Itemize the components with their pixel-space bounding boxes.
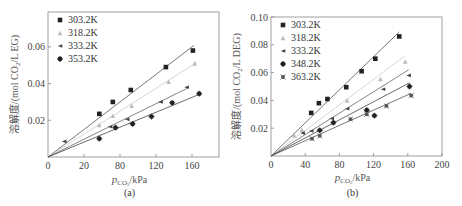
legend-label: 318.2K [291,32,322,43]
marker-left-triangle-icon [62,140,67,144]
x-tick-label: 160 [400,159,415,170]
marker-asterisk-icon [317,133,322,138]
marker-left-triangle-icon [345,107,350,111]
marker-square-icon [397,34,402,39]
marker-asterisk-icon [364,112,369,117]
y-tick-label: 0.02 [251,123,269,134]
marker-star-icon [130,121,136,127]
marker-asterisk-icon [384,103,389,108]
fit-line [271,83,410,156]
marker-square-icon [344,85,349,90]
x-tick-label: 80 [115,160,125,171]
y-tick-label: 0.04 [28,78,46,89]
legend-label: 303.2K [68,14,99,25]
y-axis-ticks: 0.020.040.060.080.10 [251,12,275,134]
x-tick-label: 0 [269,159,274,170]
chart-panel-a: 020801201600.020.040.06303.2K318.2K333.2… [8,12,219,199]
y-axis-title: 溶解度/(mol CO2/L DEG) [230,33,244,139]
y-axis-title: 溶解度/(mol CO2/L EG) [8,35,22,134]
marker-left-triangle-icon [281,49,286,53]
marker-star-icon [196,91,202,97]
x-axis-title: pCO2/kPa [111,173,148,187]
series-333.2K [271,70,411,156]
marker-square-icon [359,69,364,74]
marker-asterisk-icon [309,136,314,141]
x-axis-ticks: 04080120160200 [269,153,450,170]
marker-square-icon [325,97,330,102]
legend-label: 363.2K [291,71,322,82]
y-tick-label: 0.10 [251,12,269,23]
marker-star-icon [317,127,323,133]
x-tick-label: 0 [46,160,51,171]
marker-square-icon [309,111,314,116]
marker-left-triangle-icon [58,44,63,48]
series-318.2K [48,61,197,157]
y-tick-label: 0.06 [251,67,269,78]
marker-left-triangle-icon [108,125,113,129]
x-tick-label: 160 [185,160,200,171]
series-348.2K [271,83,413,156]
marker-star-icon [57,56,63,62]
marker-asterisk-icon [348,117,353,122]
marker-triangle-icon [58,31,63,36]
fit-line [271,93,411,156]
x-axis-ticks: 02080120160 [46,154,200,171]
chart-figure: 020801201600.020.040.06303.2K318.2K333.2… [0,0,462,206]
y-axis-ticks: 0.020.040.06 [28,41,52,125]
marker-square-icon [164,65,169,70]
fit-line [48,88,188,157]
marker-square-icon [111,100,116,105]
marker-triangle-icon [281,36,286,41]
marker-star-icon [407,84,413,90]
legend-label: 333.2K [291,45,322,56]
x-tick-label: 20 [79,160,89,171]
marker-asterisk-icon [409,93,414,98]
legend: 303.2K318.2K333.2K348.2K363.2K [280,19,322,82]
marker-square-icon [191,48,196,53]
legend-label: 318.2K [68,27,99,38]
marker-left-triangle-icon [381,87,386,91]
marker-triangle-icon [378,77,383,82]
marker-star-icon [330,120,336,126]
fit-line [271,70,409,156]
legend: 303.2K318.2K333.2K353.2K [57,14,99,64]
marker-triangle-icon [111,113,116,118]
fit-line [48,94,199,157]
legend-label: 333.2K [68,40,99,51]
y-tick-label: 0.02 [28,115,46,126]
y-tick-label: 0.08 [251,39,269,50]
marker-left-triangle-icon [406,74,411,78]
marker-square-icon [317,101,322,106]
marker-star-icon [149,114,155,120]
legend-label: 303.2K [291,19,322,30]
x-axis-title: pCO2/kPa [334,171,371,185]
marker-star-icon [371,113,377,119]
marker-asterisk-icon [280,74,285,79]
x-tick-label: 200 [435,159,450,170]
y-tick-label: 0.06 [28,41,46,52]
marker-square-icon [97,112,102,117]
x-tick-label: 120 [149,160,164,171]
marker-triangle-icon [403,59,408,64]
fit-line [48,63,197,157]
marker-square-icon [373,56,378,61]
marker-square-icon [58,18,63,23]
legend-label: 348.2K [291,58,322,69]
x-tick-label: 80 [334,159,344,170]
marker-star-icon [280,61,286,67]
panel-caption: (a) [124,187,135,199]
panel-caption: (b) [347,187,359,199]
x-tick-label: 40 [300,159,310,170]
series-353.2K [48,91,202,157]
chart-panel-b: 040801201602000.020.040.060.080.10303.2K… [230,12,450,200]
x-tick-label: 120 [366,159,381,170]
y-tick-label: 0.04 [251,95,269,106]
marker-triangle-icon [192,61,197,66]
marker-left-triangle-icon [158,100,163,104]
legend-label: 353.2K [68,53,99,64]
series-333.2K [48,85,189,157]
marker-square-icon [129,88,134,93]
marker-triangle-icon [129,103,134,108]
marker-square-icon [281,23,286,28]
